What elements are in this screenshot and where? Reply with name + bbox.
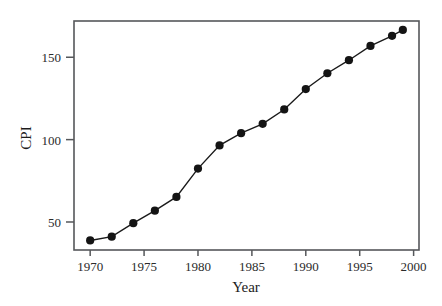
- data-point-1980: [194, 165, 202, 173]
- x-axis-title: Year: [232, 279, 260, 295]
- chart-figure: 1970197519801985199019952000 50100150 Ye…: [0, 0, 442, 306]
- y-tick-label-150: 150: [42, 50, 62, 65]
- data-point-1998: [388, 32, 396, 40]
- x-axis-ticks: [90, 250, 413, 256]
- y-axis-ticks: [66, 57, 74, 222]
- cpi-series-line: [90, 30, 403, 241]
- x-axis-tick-labels: 1970197519801985199019952000: [77, 259, 426, 274]
- data-point-1984: [237, 129, 245, 137]
- data-point-1996: [366, 42, 374, 50]
- y-tick-label-50: 50: [48, 215, 61, 230]
- x-tick-label-1975: 1975: [131, 259, 157, 274]
- data-point-1976: [151, 207, 159, 215]
- y-axis-title: CPI: [18, 126, 34, 149]
- data-point-1994: [345, 56, 353, 64]
- x-tick-label-1970: 1970: [77, 259, 103, 274]
- x-tick-label-1980: 1980: [185, 259, 211, 274]
- data-point-1972: [108, 233, 116, 241]
- x-tick-label-1995: 1995: [347, 259, 373, 274]
- data-point-1990: [302, 85, 310, 93]
- cpi-series-points: [86, 26, 407, 245]
- y-tick-label-100: 100: [42, 133, 62, 148]
- data-point-1992: [323, 69, 331, 77]
- data-point-1974: [129, 219, 137, 227]
- cpi-line-chart: 1970197519801985199019952000 50100150 Ye…: [0, 0, 442, 306]
- y-axis-tick-labels: 50100150: [42, 50, 62, 230]
- data-point-1978: [172, 193, 180, 201]
- x-tick-label-1990: 1990: [293, 259, 319, 274]
- data-point-1988: [280, 105, 288, 113]
- plot-frame: [74, 21, 419, 250]
- x-tick-label-1985: 1985: [239, 259, 265, 274]
- data-point-1999: [399, 26, 407, 34]
- data-point-1986: [259, 120, 267, 128]
- data-point-1970: [86, 236, 94, 244]
- x-tick-label-2000: 2000: [401, 259, 427, 274]
- data-point-1982: [215, 141, 223, 149]
